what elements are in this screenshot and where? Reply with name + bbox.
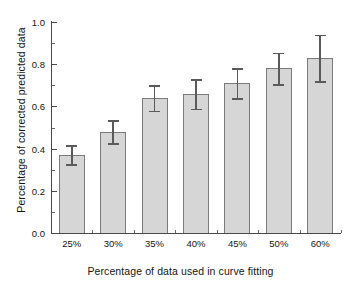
- x-tick-label-40pct: 40%: [186, 238, 205, 249]
- x-tick-label-30pct: 30%: [104, 238, 123, 249]
- y-tick-label: 0.0: [32, 228, 45, 239]
- error-bar-cap-upper: [232, 68, 243, 70]
- x-minor-tick-mark: [258, 230, 259, 233]
- x-axis-line: [51, 233, 341, 234]
- error-bar-stem-40pct: [195, 79, 197, 109]
- error-bar-stem-60pct: [319, 35, 321, 81]
- y-axis-title: Percentage of corrected predicted data: [15, 5, 27, 235]
- y-tick-label: 0.8: [32, 59, 45, 70]
- y-tick-mark: [52, 22, 57, 23]
- x-axis-title: Percentage of data used in curve fitting: [0, 265, 361, 277]
- y-minor-tick-mark: [52, 128, 55, 129]
- error-bar-cap-upper: [273, 53, 284, 55]
- y-tick-mark: [52, 64, 57, 65]
- error-bar-cap-upper: [66, 145, 77, 147]
- error-bar-cap-lower: [315, 81, 326, 83]
- bar-40pct: [183, 94, 209, 233]
- bar-50pct: [266, 68, 292, 233]
- x-tick-label-45pct: 45%: [228, 238, 247, 249]
- x-tick-label-50pct: 50%: [269, 238, 288, 249]
- y-minor-tick-mark: [52, 212, 55, 213]
- y-minor-tick-mark: [52, 85, 55, 86]
- error-bar-cap-lower: [191, 109, 202, 111]
- x-tick-label-35pct: 35%: [145, 238, 164, 249]
- error-bar-cap-upper: [108, 120, 119, 122]
- y-tick-mark: [52, 191, 57, 192]
- y-minor-tick-mark: [52, 170, 55, 171]
- error-bar-stem-35pct: [154, 85, 156, 110]
- error-bar-cap-lower: [232, 98, 243, 100]
- x-tick-label-60pct: 60%: [311, 238, 330, 249]
- bar-chart-figure: Percentage of corrected predicted data P…: [0, 0, 361, 297]
- x-minor-tick-mark: [341, 230, 342, 233]
- error-bar-cap-lower: [108, 143, 119, 145]
- error-bar-cap-upper: [149, 85, 160, 87]
- y-tick-label: 0.6: [32, 101, 45, 112]
- bar-45pct: [224, 83, 250, 233]
- error-bar-cap-lower: [273, 84, 284, 86]
- error-bar-stem-45pct: [237, 68, 239, 98]
- y-tick-label: 0.2: [32, 185, 45, 196]
- bar-25pct: [59, 155, 85, 233]
- error-bar-cap-upper: [315, 35, 326, 37]
- y-tick-label: 1.0: [32, 17, 45, 28]
- error-bar-cap-upper: [191, 79, 202, 81]
- y-tick-label: 0.4: [32, 143, 45, 154]
- error-bar-stem-30pct: [112, 120, 114, 143]
- error-bar-stem-25pct: [71, 145, 73, 164]
- x-minor-tick-mark: [134, 230, 135, 233]
- x-minor-tick-mark: [217, 230, 218, 233]
- y-tick-mark: [52, 233, 57, 234]
- y-tick-mark: [52, 106, 57, 107]
- plot-area: 0.00.20.40.60.81.0 25%30%35%40%45%50%60%: [51, 22, 341, 233]
- error-bar-stem-50pct: [278, 53, 280, 85]
- y-tick-mark: [52, 149, 57, 150]
- bar-60pct: [307, 58, 333, 233]
- bar-30pct: [100, 132, 126, 233]
- x-minor-tick-mark: [300, 230, 301, 233]
- error-bar-cap-lower: [149, 111, 160, 113]
- bar-35pct: [142, 98, 168, 233]
- x-tick-label-25pct: 25%: [62, 238, 81, 249]
- y-minor-tick-mark: [52, 43, 55, 44]
- error-bar-cap-lower: [66, 164, 77, 166]
- x-minor-tick-mark: [92, 230, 93, 233]
- x-minor-tick-mark: [175, 230, 176, 233]
